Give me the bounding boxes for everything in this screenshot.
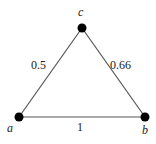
node-label-a: a	[7, 121, 13, 135]
node-label-b: b	[142, 123, 148, 137]
node-label-c: c	[78, 5, 84, 19]
edge-c-b	[82, 28, 145, 117]
node-c	[78, 24, 87, 33]
node-b	[141, 113, 150, 122]
edge-weight-a-b: 1	[77, 120, 83, 134]
edge-weight-c-b: 0.66	[110, 58, 131, 72]
edge-a-c	[19, 28, 82, 117]
edge-weight-a-c: 0.5	[31, 58, 46, 72]
node-a	[15, 113, 24, 122]
graph-diagram: a b c 0.5 0.66 1	[0, 0, 156, 144]
